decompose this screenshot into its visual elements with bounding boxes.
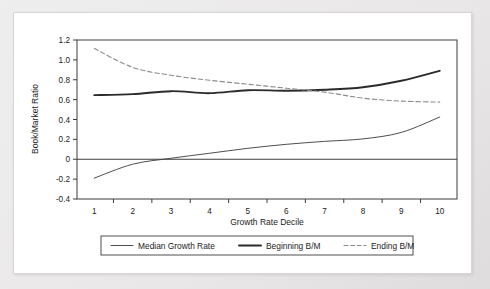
y-tick-label: 1.2: [59, 36, 71, 45]
y-tick-label: 0: [65, 155, 70, 164]
y-axis-tick-labels: 1.21.00.80.60.40.20-0.2-0.4: [56, 36, 71, 204]
y-tick-label: -0.2: [56, 175, 71, 184]
x-tick-label: 2: [130, 207, 135, 216]
plot-frame: [77, 40, 457, 199]
chart-panel: 1.21.00.80.60.40.20-0.2-0.4 12345678910 …: [13, 12, 472, 274]
figure-root: 1.21.00.80.60.40.20-0.2-0.4 12345678910 …: [0, 0, 490, 289]
y-tick-label: 0.2: [59, 135, 71, 144]
y-tick-label: 0.4: [59, 116, 71, 125]
x-axis-title: Growth Rate Decile: [230, 217, 304, 227]
x-tick-label: 1: [92, 207, 97, 216]
y-tick-label: 0.8: [59, 76, 71, 85]
legend-label-0: Median Growth Rate: [138, 241, 215, 251]
x-tick-label: 4: [207, 207, 212, 216]
plot-area-border: [77, 40, 457, 199]
legend-label-1: Beginning B/M: [266, 241, 320, 251]
x-tick-label: 8: [361, 207, 366, 216]
x-axis-ticks: [113, 199, 420, 203]
y-tick-label: 0.6: [59, 96, 71, 105]
legend: Median Growth RateBeginning B/MEnding B/…: [101, 236, 414, 255]
y-axis-ticks: [73, 40, 77, 199]
y-tick-label: -0.4: [56, 195, 71, 204]
x-axis-tick-labels: 12345678910: [92, 207, 445, 216]
x-tick-label: 10: [435, 207, 445, 216]
y-tick-label: 1.0: [59, 56, 71, 65]
chart-svg: 1.21.00.80.60.40.20-0.2-0.4 12345678910 …: [14, 13, 471, 273]
x-tick-label: 9: [399, 207, 404, 216]
x-tick-label: 7: [322, 207, 327, 216]
y-axis-title: Book/Market Ratio: [30, 84, 40, 154]
legend-label-2: Ending B/M: [371, 241, 414, 251]
x-tick-label: 3: [169, 207, 174, 216]
x-tick-label: 5: [246, 207, 251, 216]
x-tick-label: 6: [284, 207, 289, 216]
